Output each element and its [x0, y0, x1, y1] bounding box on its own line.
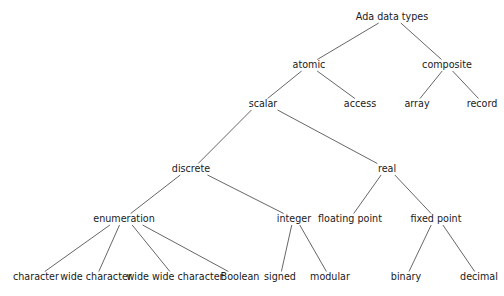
tree-node-record[interactable]: record: [467, 98, 498, 109]
tree-edge-enumeration-to-wide-character: [99, 225, 120, 272]
tree-node-scalar[interactable]: scalar: [249, 98, 278, 109]
tree-edge-enumeration-to-boolean: [143, 225, 229, 272]
tree-node-atomic[interactable]: atomic: [293, 59, 326, 70]
tree-node-real[interactable]: real: [378, 163, 396, 174]
ada-data-types-tree: Ada data typesatomiccompositescalaracces…: [0, 0, 504, 296]
tree-edge-integer-to-signed: [281, 225, 291, 272]
tree-edge-ada-data-types-to-atomic: [317, 23, 378, 60]
tree-node-binary[interactable]: binary: [391, 271, 422, 282]
tree-edge-integer-to-modular: [300, 225, 327, 272]
tree-edge-enumeration-to-wide-wide-character: [132, 225, 170, 272]
tree-node-character[interactable]: character: [13, 271, 59, 282]
edge-layer: [45, 23, 479, 272]
tree-edge-real-to-floating-point: [354, 175, 381, 214]
tree-node-ada-data-types[interactable]: Ada data types: [356, 11, 429, 22]
tree-edge-ada-data-types-to-composite: [401, 23, 442, 60]
tree-node-discrete[interactable]: discrete: [172, 163, 210, 174]
tree-edge-real-to-fixed-point: [395, 175, 431, 214]
tree-node-floating-point[interactable]: floating point: [318, 213, 382, 224]
node-layer: Ada data typesatomiccompositescalaracces…: [13, 11, 498, 282]
tree-edge-scalar-to-discrete: [198, 110, 251, 164]
tree-edge-discrete-to-integer: [207, 175, 283, 214]
tree-edge-scalar-to-real: [278, 110, 378, 164]
tree-edge-atomic-to-access: [317, 71, 355, 99]
tree-node-composite[interactable]: composite: [422, 59, 472, 70]
tree-node-array[interactable]: array: [404, 98, 429, 109]
tree-diagram-canvas: Ada data typesatomiccompositescalaracces…: [0, 0, 504, 296]
tree-node-boolean[interactable]: Boolean: [221, 271, 260, 282]
tree-node-wide-character[interactable]: wide character: [60, 271, 132, 282]
tree-edge-enumeration-to-character: [45, 225, 110, 272]
tree-node-decimal[interactable]: decimal: [460, 271, 498, 282]
tree-edge-fixed-point-to-decimal: [443, 225, 475, 272]
tree-edge-discrete-to-enumeration: [131, 175, 181, 214]
tree-edge-fixed-point-to-binary: [409, 225, 431, 272]
tree-edge-atomic-to-scalar: [268, 71, 302, 99]
tree-edge-composite-to-array: [420, 71, 442, 99]
tree-node-enumeration[interactable]: enumeration: [93, 213, 155, 224]
tree-node-modular[interactable]: modular: [310, 271, 350, 282]
tree-node-signed[interactable]: signed: [264, 271, 296, 282]
tree-node-access[interactable]: access: [344, 98, 376, 109]
tree-node-integer[interactable]: integer: [277, 213, 311, 224]
tree-edge-composite-to-record: [453, 71, 479, 99]
tree-node-wide-wide-character[interactable]: wide wide character: [126, 271, 223, 282]
tree-node-fixed-point[interactable]: fixed point: [411, 213, 462, 224]
